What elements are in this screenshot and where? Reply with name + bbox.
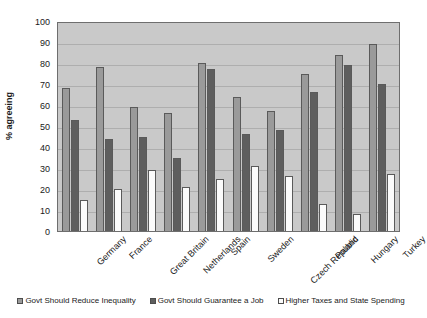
bar bbox=[139, 137, 147, 232]
bar bbox=[319, 204, 327, 231]
bar bbox=[335, 55, 343, 231]
bar-group bbox=[164, 23, 190, 231]
legend-label: Govt Should Reduce Inequality bbox=[25, 296, 135, 305]
legend-swatch bbox=[17, 298, 23, 304]
legend-swatch bbox=[150, 298, 156, 304]
bar-group bbox=[62, 23, 88, 231]
y-axis-title: % agreeing bbox=[0, 0, 18, 232]
bar bbox=[62, 88, 70, 231]
bar bbox=[71, 120, 79, 231]
y-axis-tick-label: 0 bbox=[45, 227, 50, 237]
bar bbox=[96, 67, 104, 231]
bar-group bbox=[369, 23, 395, 231]
bar bbox=[267, 111, 275, 231]
y-axis-title-text: % agreeing bbox=[4, 92, 14, 140]
plot-area bbox=[57, 22, 400, 232]
bar-group bbox=[130, 23, 156, 231]
x-axis-category-label: France bbox=[127, 234, 154, 261]
bar bbox=[207, 69, 215, 231]
bar-groups bbox=[58, 23, 399, 231]
x-axis-category-labels: GermanyFranceGreat BritainNetherlandsSpa… bbox=[57, 234, 400, 292]
x-axis-category-label: Hungary bbox=[369, 234, 400, 265]
bar bbox=[173, 158, 181, 232]
legend-label: Higher Taxes and State Spending bbox=[286, 296, 405, 305]
bar-group bbox=[96, 23, 122, 231]
y-axis-tick-label: 10 bbox=[40, 206, 50, 216]
x-axis-category-label: Poland bbox=[333, 234, 360, 261]
y-axis-tick-label: 20 bbox=[40, 185, 50, 195]
y-axis-tick-label: 40 bbox=[40, 143, 50, 153]
bar bbox=[369, 44, 377, 231]
bar-group bbox=[198, 23, 224, 231]
bar bbox=[105, 139, 113, 231]
x-axis-category-label: Sweden bbox=[265, 234, 295, 264]
y-axis-tick-label: 60 bbox=[40, 101, 50, 111]
bar bbox=[233, 97, 241, 231]
bar bbox=[344, 65, 352, 231]
bar bbox=[242, 134, 250, 231]
bar bbox=[148, 170, 156, 231]
bar-group bbox=[267, 23, 293, 231]
y-axis-tick-label: 80 bbox=[40, 59, 50, 69]
bar bbox=[251, 166, 259, 231]
bar bbox=[216, 179, 224, 232]
y-axis-tick-labels: 0102030405060708090100 bbox=[18, 22, 54, 232]
bar bbox=[114, 189, 122, 231]
legend-item: Govt Should Guarantee a Job bbox=[150, 296, 264, 305]
bar-group bbox=[301, 23, 327, 231]
legend-item: Govt Should Reduce Inequality bbox=[17, 296, 135, 305]
bar bbox=[378, 84, 386, 231]
x-axis-category-label: Germany bbox=[95, 234, 128, 267]
y-axis-tick-label: 50 bbox=[40, 122, 50, 132]
bar bbox=[285, 176, 293, 231]
y-axis-tick-label: 30 bbox=[40, 164, 50, 174]
y-axis-tick-label: 70 bbox=[40, 80, 50, 90]
legend-label: Govt Should Guarantee a Job bbox=[158, 296, 264, 305]
y-axis-tick-label: 100 bbox=[35, 17, 50, 27]
y-axis-tick-label: 90 bbox=[40, 38, 50, 48]
x-axis-category-label: Turkey bbox=[401, 234, 427, 260]
bar-group bbox=[233, 23, 259, 231]
bar bbox=[387, 174, 395, 231]
bar bbox=[164, 113, 172, 231]
bar-group bbox=[335, 23, 361, 231]
bar bbox=[198, 63, 206, 231]
bar bbox=[353, 214, 361, 231]
legend-item: Higher Taxes and State Spending bbox=[278, 296, 405, 305]
chart-legend: Govt Should Reduce InequalityGovt Should… bbox=[0, 296, 422, 305]
bar bbox=[310, 92, 318, 231]
bar bbox=[182, 187, 190, 231]
bar bbox=[80, 200, 88, 232]
legend-swatch bbox=[278, 298, 284, 304]
bar bbox=[301, 74, 309, 232]
bar bbox=[276, 130, 284, 231]
bar bbox=[130, 107, 138, 231]
